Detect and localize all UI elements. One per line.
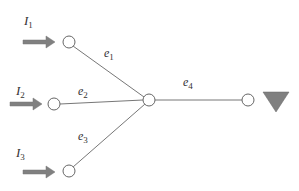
network-diagram: I1 I2 I3 e1 e2 e3 e4	[0, 0, 299, 191]
input-label-2: I2	[15, 83, 25, 100]
input-arrow-icon-1	[23, 36, 55, 48]
input-arrow-icon-3	[23, 166, 55, 178]
edge-label-e1: e1	[104, 46, 114, 62]
edge-e2	[60, 100, 143, 104]
downward-triangle-sink-icon	[263, 92, 289, 112]
node-2	[48, 98, 60, 110]
output-node	[242, 94, 254, 106]
node-3	[63, 165, 75, 177]
input-label-1: I1	[23, 13, 33, 30]
edge-label-e3: e3	[78, 129, 88, 145]
node-1	[63, 36, 75, 48]
edge-label-e2: e2	[78, 84, 88, 100]
input-label-3: I3	[15, 145, 25, 162]
hub-node	[143, 94, 155, 106]
edge-label-e4: e4	[183, 75, 193, 91]
input-arrow-icon-2	[10, 98, 42, 110]
